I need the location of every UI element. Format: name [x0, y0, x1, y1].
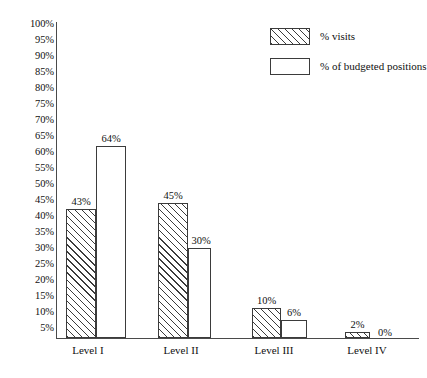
- x-axis-line: [56, 338, 419, 339]
- bar-chart: 100% 95% 90% 85% 80% 75% 70% 65% 60% 55%…: [0, 0, 427, 378]
- legend-swatch-white-icon: [270, 58, 310, 75]
- bar-value-label: 10%: [250, 295, 283, 306]
- y-tick-label: 45%: [2, 194, 54, 205]
- bar-level-iii-visits[interactable]: [252, 308, 281, 338]
- y-tick-label: 5%: [2, 322, 54, 333]
- x-category-label-level-iv: Level IV: [327, 344, 407, 357]
- y-tick-label: 95%: [2, 34, 54, 45]
- x-category-label-level-iii: Level III: [234, 344, 314, 357]
- legend-label: % visits: [320, 30, 355, 43]
- y-tick-label: 10%: [2, 306, 54, 317]
- legend-swatch-hatched-icon: [270, 28, 310, 45]
- y-tick-label: 65%: [2, 130, 54, 141]
- y-tick-label: 60%: [2, 146, 54, 157]
- bar-value-label: 2%: [343, 319, 372, 330]
- x-category-label-level-ii: Level II: [141, 344, 221, 357]
- legend: % visits % of budgeted positions: [270, 28, 427, 88]
- y-tick-label: 50%: [2, 178, 54, 189]
- y-tick-label: 15%: [2, 290, 54, 301]
- y-tick-label: 30%: [2, 242, 54, 253]
- legend-label: % of budgeted positions: [320, 60, 427, 73]
- y-tick-label: 70%: [2, 114, 54, 125]
- bar-value-label: 64%: [94, 133, 128, 144]
- bar-level-i-budgeted[interactable]: [96, 146, 126, 338]
- bar-level-iii-budgeted[interactable]: [281, 320, 307, 338]
- bar-value-label: 30%: [185, 235, 217, 246]
- legend-item-budgeted-positions[interactable]: % of budgeted positions: [270, 58, 427, 76]
- bar-level-iv-visits[interactable]: [345, 332, 370, 338]
- bar-value-label: 6%: [279, 307, 309, 318]
- bar-level-i-visits[interactable]: [66, 209, 96, 338]
- y-tick-label: 25%: [2, 258, 54, 269]
- bar-value-label: 0%: [372, 327, 398, 338]
- y-tick-label: 90%: [2, 50, 54, 61]
- bar-level-ii-visits[interactable]: [158, 203, 188, 338]
- y-tick-label: 100%: [2, 18, 54, 29]
- y-tick-label: 55%: [2, 162, 54, 173]
- x-category-label-level-i: Level I: [48, 344, 128, 357]
- y-tick-label: 40%: [2, 210, 54, 221]
- legend-item-visits[interactable]: % visits: [270, 28, 427, 46]
- y-tick-label: 20%: [2, 274, 54, 285]
- bar-level-ii-budgeted[interactable]: [188, 248, 211, 338]
- y-tick-label: 80%: [2, 82, 54, 93]
- y-tick-label: 85%: [2, 66, 54, 77]
- y-tick-label: 35%: [2, 226, 54, 237]
- y-axis-ticks: 100% 95% 90% 85% 80% 75% 70% 65% 60% 55%…: [0, 0, 54, 378]
- y-tick-label: 75%: [2, 98, 54, 109]
- bar-value-label: 45%: [156, 190, 190, 201]
- bar-value-label: 43%: [64, 196, 98, 207]
